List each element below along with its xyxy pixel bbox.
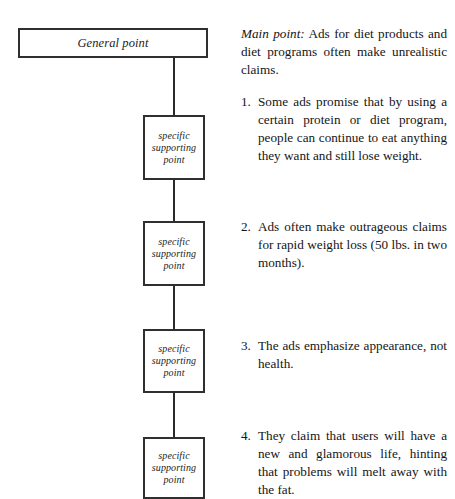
supporting-point-label-3: specific supporting point [145,343,203,379]
connector-line-general-to-support-1 [173,57,175,116]
list-item-text: Ads often make outrageous claims for rap… [258,218,447,272]
list-item: 3. The ads emphasize appearance, not hea… [241,337,447,373]
main-point-paragraph: Main point: Ads for diet products and di… [241,25,447,79]
list-item: 4. They claim that users will have a new… [241,427,447,499]
list-item-text: The ads emphasize appearance, not health… [258,337,447,373]
prose-column: Main point: Ads for diet products and di… [238,0,450,499]
supporting-point-box-2: specific supporting point [143,221,205,286]
list-item: 1. Some ads promise that by using a cert… [241,93,447,165]
main-point-lead-label: Main point: [241,26,305,41]
supporting-point-box-4: specific supporting point [143,437,205,499]
general-point-label: General point [77,36,148,51]
outline-diagram: General point specific supporting point … [0,0,230,499]
general-point-box: General point [18,28,208,58]
supporting-point-label-4: specific supporting point [145,450,203,486]
list-item-number: 3. [241,337,258,373]
list-item-number: 4. [241,427,258,499]
list-item-number: 2. [241,218,258,272]
supporting-point-box-3: specific supporting point [143,329,205,393]
list-item-text: Some ads promise that by using a certain… [258,93,447,165]
connector-line-support-2-to-support-3 [173,285,175,330]
list-item-number: 1. [241,93,258,165]
connector-line-support-1-to-support-2 [173,179,175,222]
supporting-point-label-2: specific supporting point [145,236,203,272]
supporting-point-box-1: specific supporting point [143,115,205,180]
supporting-point-label-1: specific supporting point [145,130,203,166]
list-item: 2. Ads often make outrageous claims for … [241,218,447,272]
connector-line-support-3-to-support-4 [173,392,175,438]
list-item-text: They claim that users will have a new an… [258,427,447,499]
